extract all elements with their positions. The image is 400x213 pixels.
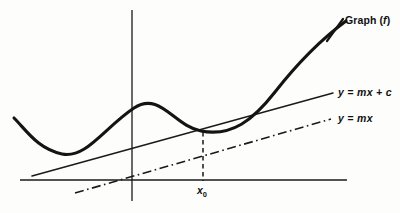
graph-label-prefix: Graph ( <box>345 14 383 26</box>
graph-label-leader-line <box>327 19 343 41</box>
label-x0-subscript: 0 <box>203 190 207 199</box>
math-figure: Graph (f) y = mx + c y = mx x0 <box>0 0 400 213</box>
line-y-equals-mx-plus-c <box>32 93 333 176</box>
graph-f-label: Graph (f) <box>345 15 390 26</box>
figure-canvas <box>0 0 400 213</box>
label-y-equals-mx: y = mx <box>338 113 373 124</box>
graph-label-suffix: ) <box>387 14 391 26</box>
label-x0: x0 <box>197 185 207 199</box>
label-y-equals-mx-plus-c: y = mx + c <box>338 87 392 98</box>
